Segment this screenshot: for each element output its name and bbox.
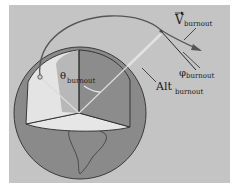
launch-point [38,75,42,79]
theta-subscript: burnout [67,77,96,85]
velocity-symbol: V [174,13,184,27]
phi-subscript: burnout [186,72,215,80]
altitude-symbol: Alt [155,80,172,93]
altitude-leader-line [142,68,156,82]
velocity-label: V burnout [174,12,213,29]
theta-symbol: θ [60,70,66,81]
phi-symbol: φ [179,67,186,78]
velocity-arrowhead [191,44,202,51]
velocity-leader-line [184,28,196,40]
local-horizontal-line [161,31,196,70]
phi-label: φ burnout [179,67,215,80]
burnout-geometry-diagram: V burnout φ burnout Alt burnout θ burnou… [0,0,235,189]
altitude-subscript: burnout [175,88,204,96]
velocity-subscript: burnout [184,20,213,28]
altitude-label: Alt burnout [155,80,204,96]
altitude-segment [128,34,161,66]
